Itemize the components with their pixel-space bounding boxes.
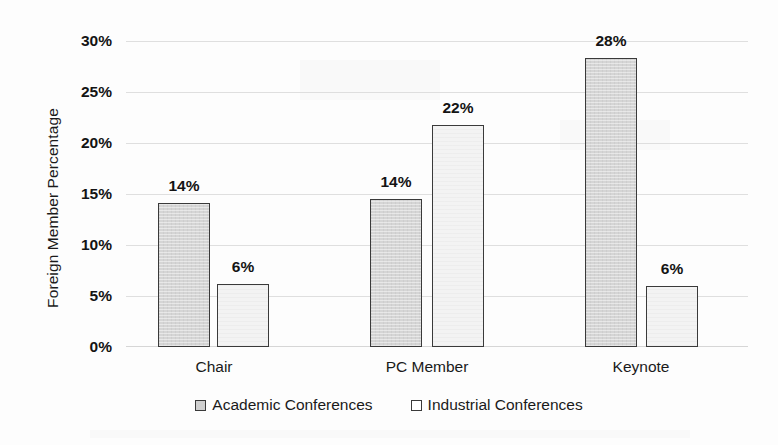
bar-keynote-academic[interactable] (585, 58, 637, 347)
hollow-square-marker-icon (411, 400, 422, 411)
plot-area: 14% 6% 14% 22% 28% 6% (126, 41, 748, 347)
legend-label: Industrial Conferences (428, 396, 583, 414)
chart-legend: Academic Conferences Industrial Conferen… (0, 396, 778, 414)
gridline (126, 41, 748, 42)
x-axis-label-chair: Chair (195, 358, 232, 376)
bar-chair-academic[interactable] (158, 203, 210, 347)
legend-item-academic-conferences[interactable]: Academic Conferences (195, 396, 372, 414)
y-tick-label: 30% (46, 32, 112, 50)
y-tick-label: 25% (46, 83, 112, 101)
bar-value-label-keynote-academic: 28% (595, 32, 626, 50)
x-axis-label-pc-member: PC Member (386, 358, 469, 376)
bar-value-label-pcmember-industrial: 22% (442, 99, 473, 117)
y-tick-label: 10% (46, 236, 112, 254)
bar-pcmember-academic[interactable] (370, 199, 422, 347)
bar-value-label-pcmember-academic: 14% (380, 173, 411, 191)
bar-value-label-chair-academic: 14% (168, 177, 199, 195)
y-tick-label: 15% (46, 185, 112, 203)
legend-label: Academic Conferences (212, 396, 372, 414)
y-tick-label: 20% (46, 134, 112, 152)
y-tick-label: 0% (46, 338, 112, 356)
bar-keynote-industrial[interactable] (646, 286, 698, 347)
x-axis-label-keynote: Keynote (613, 358, 670, 376)
bar-chart: Foreign Member Percentage 30% 25% 20% 15… (0, 0, 778, 445)
filled-square-marker-icon (195, 400, 206, 411)
bar-chair-industrial[interactable] (217, 284, 269, 347)
bar-value-label-keynote-industrial: 6% (661, 260, 683, 278)
y-axis-tick-labels: 30% 25% 20% 15% 10% 5% 0% (46, 0, 112, 445)
bar-pcmember-industrial[interactable] (432, 125, 484, 347)
y-tick-label: 5% (46, 287, 112, 305)
gridline (126, 92, 748, 93)
legend-item-industrial-conferences[interactable]: Industrial Conferences (411, 396, 583, 414)
bar-value-label-chair-industrial: 6% (232, 258, 254, 276)
